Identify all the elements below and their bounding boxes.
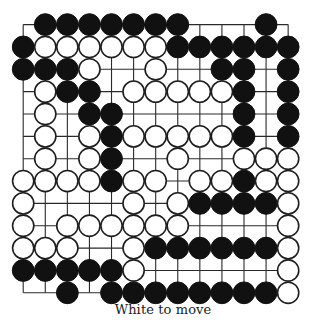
white-stone [278, 238, 299, 259]
white-stone [13, 215, 34, 236]
black-stone [277, 81, 299, 103]
white-stone [167, 148, 188, 169]
go-board [0, 0, 313, 305]
black-stone [79, 14, 101, 36]
black-stone [255, 14, 277, 36]
white-stone [13, 193, 34, 214]
puzzle-caption: White to move [0, 302, 313, 317]
white-stone [189, 126, 210, 147]
black-stone [101, 14, 123, 36]
black-stone [211, 58, 233, 80]
black-stone [123, 14, 145, 36]
white-stone [278, 282, 299, 303]
black-stone [233, 58, 255, 80]
white-stone [278, 193, 299, 214]
black-stone [101, 282, 123, 304]
white-stone [123, 81, 144, 102]
white-stone [79, 59, 100, 80]
white-stone [123, 238, 144, 259]
white-stone [35, 81, 56, 102]
black-stone [79, 260, 101, 282]
white-stone [35, 103, 56, 124]
white-stone [123, 126, 144, 147]
black-stone [123, 282, 145, 304]
black-stone [233, 193, 255, 215]
black-stone [211, 193, 233, 215]
black-stone [56, 81, 78, 103]
white-stone [57, 238, 78, 259]
black-stone [56, 260, 78, 282]
black-stone [233, 282, 255, 304]
white-stone [101, 36, 122, 57]
white-stone [79, 126, 100, 147]
white-stone [79, 215, 100, 236]
black-stone [167, 14, 189, 36]
black-stone [255, 237, 277, 259]
white-stone [167, 215, 188, 236]
black-stone [255, 36, 277, 58]
white-stone [278, 260, 299, 281]
white-stone [211, 170, 232, 191]
white-stone [123, 215, 144, 236]
black-stone [101, 125, 123, 147]
white-stone [35, 148, 56, 169]
black-stone [277, 103, 299, 125]
black-stone [34, 14, 56, 36]
white-stone [189, 170, 210, 191]
white-stone [13, 170, 34, 191]
white-stone [123, 36, 144, 57]
black-stone [277, 125, 299, 147]
black-stone [211, 282, 233, 304]
white-stone [233, 148, 254, 169]
white-stone [255, 148, 276, 169]
white-stone [211, 126, 232, 147]
black-stone [56, 58, 78, 80]
white-stone [35, 238, 56, 259]
white-stone [145, 81, 166, 102]
white-stone [123, 170, 144, 191]
black-stone [79, 81, 101, 103]
white-stone [57, 170, 78, 191]
black-stone [12, 58, 34, 80]
white-stone [167, 126, 188, 147]
black-stone [189, 282, 211, 304]
black-stone [56, 282, 78, 304]
white-stone [101, 215, 122, 236]
black-stone [101, 170, 123, 192]
black-stone [211, 237, 233, 259]
black-stone [255, 282, 277, 304]
white-stone [278, 148, 299, 169]
black-stone [211, 36, 233, 58]
black-stone [233, 103, 255, 125]
black-stone [233, 170, 255, 192]
black-stone [145, 237, 167, 259]
white-stone [57, 36, 78, 57]
black-stone [233, 125, 255, 147]
white-stone [167, 81, 188, 102]
go-board-svg [0, 0, 313, 305]
white-stone [278, 170, 299, 191]
white-stone [145, 126, 166, 147]
white-stone [167, 193, 188, 214]
black-stone [277, 58, 299, 80]
black-stone [101, 148, 123, 170]
white-stone [255, 170, 276, 191]
black-stone [167, 237, 189, 259]
white-stone [123, 260, 144, 281]
white-stone [79, 148, 100, 169]
black-stone [189, 36, 211, 58]
white-stone [13, 238, 34, 259]
black-stone [233, 36, 255, 58]
black-stone [277, 36, 299, 58]
white-stone [189, 81, 210, 102]
black-stone [101, 103, 123, 125]
white-stone [211, 81, 232, 102]
white-stone [278, 215, 299, 236]
black-stone [167, 282, 189, 304]
white-stone [35, 126, 56, 147]
black-stone [12, 36, 34, 58]
black-stone [189, 237, 211, 259]
black-stone [233, 237, 255, 259]
white-stone [35, 36, 56, 57]
white-stone [79, 170, 100, 191]
